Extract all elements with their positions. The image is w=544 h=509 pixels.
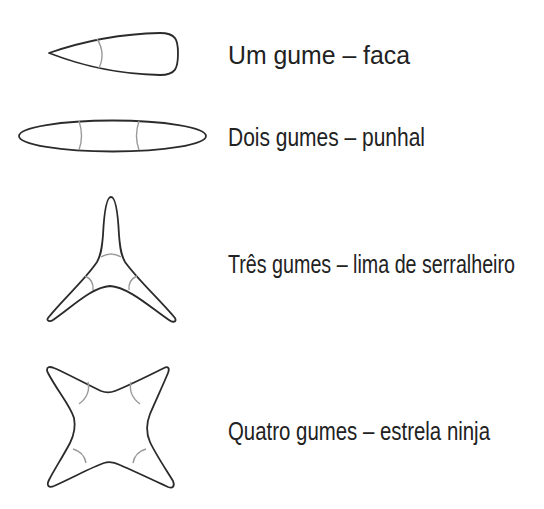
- edges-diagram: Um gume – faca Dois gumes – punhal Três …: [0, 0, 544, 509]
- file-shape-icon: [47, 197, 175, 322]
- ninja-star-shape-icon: [47, 367, 174, 488]
- label-three-edges: Três gumes – lima de serralheiro: [228, 250, 515, 278]
- label-one-edge: Um gume – faca: [228, 41, 410, 69]
- label-two-edges: Dois gumes – punhal: [228, 123, 425, 151]
- knife-shape-icon: [49, 33, 178, 75]
- label-four-edges: Quatro gumes – estrela ninja: [228, 417, 490, 445]
- dagger-shape-icon: [19, 121, 206, 152]
